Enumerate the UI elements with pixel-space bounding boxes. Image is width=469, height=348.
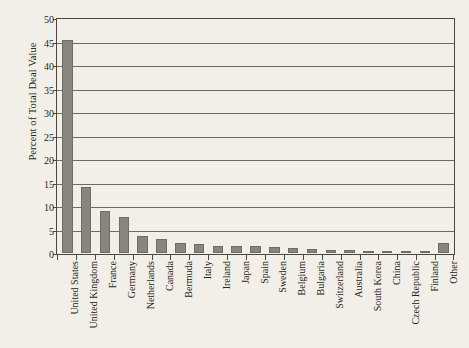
x-label-cell: Netherlands bbox=[133, 261, 152, 347]
x-tick-label: Other bbox=[449, 261, 459, 284]
bar-group bbox=[303, 20, 322, 253]
y-tick-mark bbox=[53, 19, 57, 20]
bar-group bbox=[321, 20, 340, 253]
x-label-cell: Switzerland bbox=[322, 261, 341, 347]
x-tick-mark bbox=[265, 255, 284, 260]
bar bbox=[81, 187, 92, 253]
x-label-cell: China bbox=[378, 261, 397, 347]
x-tick-mark bbox=[378, 255, 397, 260]
bar-group bbox=[397, 20, 416, 253]
bar-group bbox=[96, 20, 115, 253]
x-tick-mark bbox=[189, 255, 208, 260]
y-tick-mark bbox=[53, 137, 57, 138]
x-tick-mark bbox=[170, 255, 189, 260]
bar bbox=[382, 251, 393, 253]
x-label-cell: Australia bbox=[341, 261, 360, 347]
x-label-cell: Bulgaria bbox=[303, 261, 322, 347]
bar bbox=[250, 246, 261, 253]
bar-series bbox=[58, 20, 453, 253]
x-axis-labels: United StatesUnited KingdomFranceGermany… bbox=[57, 261, 454, 347]
bar bbox=[231, 246, 242, 253]
bar bbox=[307, 249, 318, 253]
x-tick-mark bbox=[397, 255, 416, 260]
x-tick-mark bbox=[114, 255, 133, 260]
x-tick-mark bbox=[208, 255, 227, 260]
bar-group bbox=[58, 20, 77, 253]
x-label-cell: Bermuda bbox=[170, 261, 189, 347]
x-tick-mark bbox=[284, 255, 303, 260]
bar bbox=[438, 243, 449, 253]
x-label-cell: Italy bbox=[189, 261, 208, 347]
x-axis-ticks bbox=[57, 255, 454, 260]
bar-group bbox=[171, 20, 190, 253]
bar-group bbox=[415, 20, 434, 253]
x-tick-mark bbox=[95, 255, 114, 260]
bar bbox=[100, 211, 111, 253]
x-label-cell: Other bbox=[435, 261, 454, 347]
x-tick-mark bbox=[416, 255, 435, 260]
bar-group bbox=[209, 20, 228, 253]
x-tick-mark bbox=[133, 255, 152, 260]
x-label-cell: Finland bbox=[416, 261, 435, 347]
bar-group bbox=[77, 20, 96, 253]
bar bbox=[401, 251, 412, 253]
x-label-cell: Czech Republic bbox=[397, 261, 416, 347]
y-tick-mark bbox=[53, 160, 57, 161]
bar-group bbox=[434, 20, 453, 253]
x-label-cell: Ireland bbox=[208, 261, 227, 347]
x-tick-mark bbox=[227, 255, 246, 260]
bar-group bbox=[378, 20, 397, 253]
y-tick-mark bbox=[53, 207, 57, 208]
plot-area: 05101520253035404550 bbox=[56, 18, 455, 255]
bar-group bbox=[246, 20, 265, 253]
y-tick-mark bbox=[53, 90, 57, 91]
bar-group bbox=[190, 20, 209, 253]
x-tick-mark bbox=[76, 255, 95, 260]
bar bbox=[269, 247, 280, 253]
x-label-cell: United Kingdom bbox=[76, 261, 95, 347]
bar-group bbox=[340, 20, 359, 253]
y-tick-mark bbox=[53, 184, 57, 185]
bar bbox=[62, 40, 73, 253]
bar-group bbox=[284, 20, 303, 253]
x-label-cell: Canada bbox=[152, 261, 171, 347]
x-label-cell: France bbox=[95, 261, 114, 347]
x-tick-mark bbox=[246, 255, 265, 260]
x-label-cell: Spain bbox=[246, 261, 265, 347]
x-label-cell: Germany bbox=[114, 261, 133, 347]
x-tick-mark bbox=[152, 255, 171, 260]
x-tick-mark bbox=[57, 255, 76, 260]
y-tick-mark bbox=[53, 231, 57, 232]
x-tick-mark bbox=[341, 255, 360, 260]
bar bbox=[156, 239, 167, 253]
bar-group bbox=[359, 20, 378, 253]
bar-group bbox=[265, 20, 284, 253]
bar-group bbox=[133, 20, 152, 253]
bar bbox=[194, 244, 205, 253]
bar bbox=[213, 246, 224, 253]
x-label-cell: Japan bbox=[227, 261, 246, 347]
bar bbox=[363, 251, 374, 253]
x-tick-mark bbox=[435, 255, 454, 260]
x-tick-mark bbox=[322, 255, 341, 260]
x-label-cell: Sweden bbox=[265, 261, 284, 347]
bar bbox=[420, 251, 431, 253]
bar bbox=[137, 236, 148, 253]
x-tick-mark bbox=[303, 255, 322, 260]
bar-group bbox=[114, 20, 133, 253]
bar bbox=[344, 250, 355, 253]
x-label-cell: United States bbox=[57, 261, 76, 347]
x-label-cell: Belgium bbox=[284, 261, 303, 347]
y-tick-mark bbox=[53, 113, 57, 114]
chart-figure: Percent of Total Deal Value 051015202530… bbox=[0, 0, 469, 348]
bar bbox=[175, 243, 186, 253]
y-tick-mark bbox=[53, 66, 57, 67]
bar bbox=[288, 248, 299, 253]
bar bbox=[119, 217, 130, 253]
bar-group bbox=[227, 20, 246, 253]
x-label-cell: South Korea bbox=[360, 261, 379, 347]
y-tick-mark bbox=[53, 43, 57, 44]
bar bbox=[326, 250, 337, 253]
x-tick-mark bbox=[360, 255, 379, 260]
bar-group bbox=[152, 20, 171, 253]
